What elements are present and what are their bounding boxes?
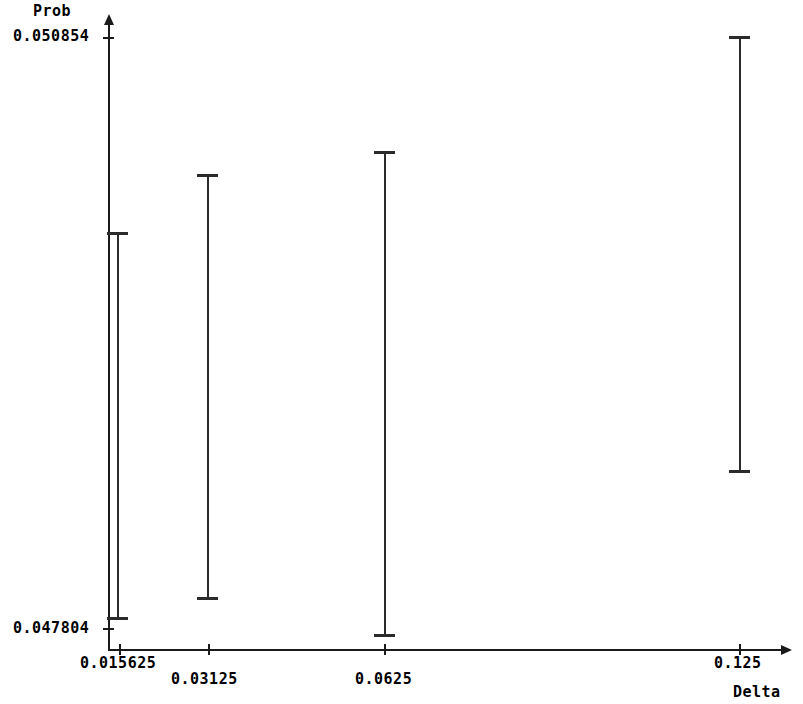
y-tick-mark-min xyxy=(103,628,114,630)
y-axis-arrow-icon xyxy=(104,14,114,25)
x-tick-label-2: 0.03125 xyxy=(171,671,238,687)
y-tick-label-max: 0.050854 xyxy=(13,28,89,44)
x-tick-mark-3 xyxy=(384,644,386,655)
x-axis-title: Delta xyxy=(733,684,781,700)
error-bar-stem-4 xyxy=(739,37,741,472)
y-tick-label-min: 0.047804 xyxy=(13,620,89,636)
error-bar-cap-bottom-3 xyxy=(374,634,395,637)
error-bar-cap-top-3 xyxy=(374,151,395,154)
error-bar-cap-top-1 xyxy=(107,232,128,235)
error-bar-cap-top-2 xyxy=(197,174,218,177)
x-tick-label-1: 0.015625 xyxy=(80,655,156,671)
x-tick-mark-2 xyxy=(208,644,210,655)
error-bar-cap-bottom-2 xyxy=(197,597,218,600)
y-axis-line xyxy=(108,24,110,650)
x-tick-label-4: 0.125 xyxy=(714,655,762,671)
error-bar-cap-top-4 xyxy=(729,36,750,39)
error-bar-cap-bottom-4 xyxy=(729,470,750,473)
error-bar-stem-2 xyxy=(207,175,209,599)
y-axis-title: Prob xyxy=(33,3,71,19)
error-bar-cap-bottom-1 xyxy=(107,617,128,620)
error-bar-stem-3 xyxy=(384,152,386,636)
x-axis-arrow-icon xyxy=(781,645,792,655)
x-tick-label-3: 0.0625 xyxy=(355,671,412,687)
error-bar-stem-1 xyxy=(117,233,119,619)
y-tick-mark-max xyxy=(103,37,114,39)
chart-canvas: Prob 0.050854 0.047804 0.015625 0.03125 … xyxy=(0,0,803,704)
